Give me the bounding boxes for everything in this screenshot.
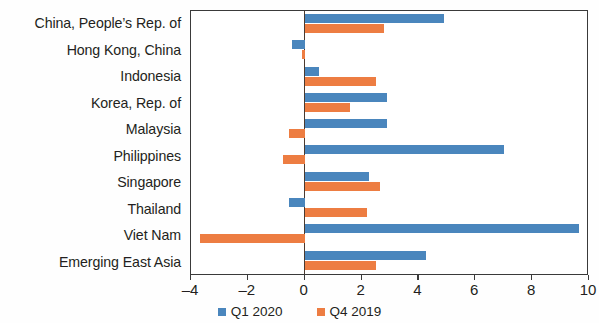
- bar-q1-2020: [305, 172, 369, 181]
- x-axis-tick-label: 8: [527, 280, 535, 300]
- plot-area: [190, 10, 588, 275]
- category-label: Philippines: [0, 143, 186, 170]
- bar-q1-2020: [289, 198, 305, 207]
- bar-q4-2019: [283, 155, 304, 164]
- category-label: Indonesia: [0, 63, 186, 90]
- x-axis-tick-label: –4: [182, 280, 199, 300]
- bar-row: [191, 221, 587, 247]
- bar-q1-2020: [305, 119, 387, 128]
- category-label: Malaysia: [0, 116, 186, 143]
- bar-q4-2019: [305, 208, 368, 217]
- bar-q4-2019: [305, 261, 376, 270]
- bar-q4-2019: [305, 103, 350, 112]
- category-label: Korea, Rep. of: [0, 90, 186, 117]
- category-label: Viet Nam: [0, 222, 186, 249]
- legend-label: Q1 2020: [231, 305, 283, 319]
- plot-inner: [191, 11, 587, 274]
- x-axis-tick-label: 10: [580, 280, 597, 300]
- category-label: Hong Kong, China: [0, 37, 186, 64]
- legend-swatch-q4-2019: [317, 308, 325, 316]
- x-axis-tick-label: 4: [413, 280, 421, 300]
- legend-swatch-q1-2020: [218, 308, 226, 316]
- legend-label: Q4 2019: [330, 305, 382, 319]
- x-axis-tick-label: 0: [300, 280, 308, 300]
- x-axis-tick-label: 6: [470, 280, 478, 300]
- bar-row: [191, 116, 587, 142]
- category-label: Thailand: [0, 196, 186, 223]
- bar-q1-2020: [305, 67, 319, 76]
- x-axis-tick-label: –2: [239, 280, 256, 300]
- bar-q4-2019: [305, 182, 380, 191]
- bar-row: [191, 64, 587, 90]
- bar-q4-2019: [305, 77, 376, 86]
- bar-q4-2019: [302, 50, 305, 59]
- bar-q4-2019: [305, 24, 385, 33]
- bar-row: [191, 37, 587, 63]
- bar-q4-2019: [200, 234, 305, 243]
- bar-q1-2020: [305, 251, 426, 260]
- bar-row: [191, 169, 587, 195]
- bar-q4-2019: [289, 129, 305, 138]
- bar-q1-2020: [292, 40, 305, 49]
- category-axis-labels: China, People’s Rep. ofHong Kong, ChinaI…: [0, 10, 186, 275]
- legend-item[interactable]: Q1 2020: [218, 305, 283, 319]
- category-label: Emerging East Asia: [0, 249, 186, 276]
- horizontal-bar-chart: China, People’s Rep. ofHong Kong, ChinaI…: [0, 0, 599, 323]
- category-label: China, People’s Rep. of: [0, 10, 186, 37]
- bar-q1-2020: [305, 14, 444, 23]
- legend-item[interactable]: Q4 2019: [317, 305, 382, 319]
- bar-row: [191, 11, 587, 37]
- x-axis-tick-labels: –4–20246810: [190, 280, 588, 302]
- chart-legend: Q1 2020Q4 2019: [0, 301, 599, 323]
- category-label: Singapore: [0, 169, 186, 196]
- bar-q1-2020: [305, 93, 387, 102]
- bar-row: [191, 248, 587, 274]
- bar-row: [191, 90, 587, 116]
- bar-row: [191, 142, 587, 168]
- bar-q1-2020: [305, 224, 579, 233]
- bar-row: [191, 195, 587, 221]
- x-axis-tick-label: 2: [356, 280, 364, 300]
- bar-q1-2020: [305, 145, 504, 154]
